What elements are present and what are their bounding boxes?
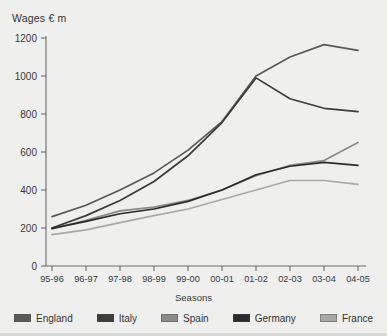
x-tick-label: 03-04	[312, 274, 336, 284]
legend-item-france[interactable]: France	[320, 313, 373, 324]
series-line-england	[52, 45, 358, 217]
legend-item-spain[interactable]: Spain	[161, 313, 209, 324]
x-tick-label: 00-01	[210, 274, 234, 284]
series-line-germany	[52, 162, 358, 228]
x-axis-title: Seasons	[0, 292, 387, 303]
legend-label: England	[36, 313, 73, 324]
x-tick-label: 04-05	[346, 274, 370, 284]
x-tick-label: 01-02	[244, 274, 268, 284]
y-tick-label: 600	[20, 147, 37, 158]
x-tick-label: 95-96	[40, 274, 64, 284]
series-line-italy	[52, 78, 358, 228]
series-line-france	[52, 181, 358, 235]
legend-item-england[interactable]: England	[14, 313, 73, 324]
x-tick-label: 99-00	[176, 274, 200, 284]
legend-swatch-icon	[161, 314, 178, 322]
y-axis-ticks: 120010008006004002000	[15, 33, 46, 272]
y-tick-label: 1000	[15, 71, 38, 82]
legend-label: France	[342, 313, 373, 324]
x-tick-label: 98-99	[142, 274, 166, 284]
data-series-group	[52, 45, 358, 235]
line-chart-plot: 120010008006004002000 95-9696-9797-9898-…	[0, 0, 387, 336]
legend-item-italy[interactable]: Italy	[97, 313, 137, 324]
y-tick-label: 1200	[15, 33, 38, 44]
x-axis-ticks: 95-9696-9797-9898-9999-0000-0101-0202-03…	[40, 266, 370, 284]
chart-legend: EnglandItalySpainGermanyFrance	[0, 306, 387, 330]
y-tick-label: 200	[20, 223, 37, 234]
legend-label: Italy	[119, 313, 137, 324]
y-tick-label: 800	[20, 109, 37, 120]
legend-swatch-icon	[97, 314, 114, 322]
y-tick-label: 400	[20, 185, 37, 196]
x-tick-label: 96-97	[74, 274, 98, 284]
x-tick-label: 02-03	[278, 274, 302, 284]
y-tick-label: 0	[31, 261, 37, 272]
legend-label: Spain	[183, 313, 209, 324]
legend-swatch-icon	[233, 314, 250, 322]
legend-item-germany[interactable]: Germany	[233, 313, 296, 324]
series-line-spain	[52, 143, 358, 229]
legend-swatch-icon	[320, 314, 337, 322]
chart-figure: Wages € m 120010008006004002000 95-9696-…	[0, 0, 387, 336]
legend-swatch-icon	[14, 314, 31, 322]
legend-label: Germany	[255, 313, 296, 324]
x-tick-label: 97-98	[108, 274, 132, 284]
